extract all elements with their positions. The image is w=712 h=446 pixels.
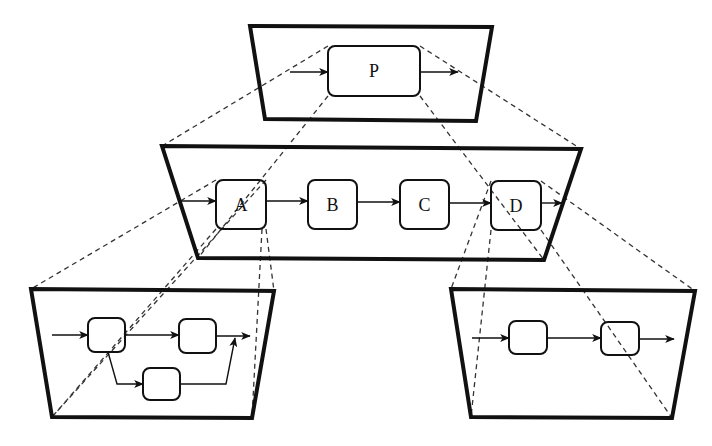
projection-dashed-line bbox=[451, 181, 491, 289]
process-label: A bbox=[235, 195, 248, 215]
process-D: D bbox=[491, 181, 541, 230]
process-box bbox=[509, 321, 547, 354]
process-D1 bbox=[509, 321, 547, 354]
process-box bbox=[601, 322, 639, 355]
projection-dashed-line bbox=[31, 180, 216, 289]
process-A2 bbox=[179, 319, 216, 353]
level-bottom-right-frame bbox=[451, 289, 695, 418]
process-label: D bbox=[510, 196, 523, 216]
process-A: A bbox=[216, 180, 266, 229]
process-C: C bbox=[400, 180, 449, 229]
process-B: B bbox=[308, 180, 357, 229]
process-label: P bbox=[369, 61, 379, 81]
diagram-canvas: PABCD bbox=[0, 0, 712, 446]
projection-dashed-line bbox=[162, 46, 328, 146]
process-D2 bbox=[601, 322, 639, 355]
process-box bbox=[179, 319, 216, 353]
process-A3 bbox=[143, 368, 180, 400]
projection-dashed-line bbox=[420, 46, 581, 149]
process-box bbox=[88, 318, 125, 352]
process-A1 bbox=[88, 318, 125, 352]
flow-arrow bbox=[108, 352, 143, 384]
projection-lines bbox=[31, 46, 695, 418]
process-label: B bbox=[326, 195, 338, 215]
process-hierarchy-diagram: PABCD bbox=[0, 0, 712, 446]
process-box bbox=[143, 368, 180, 400]
process-P: P bbox=[328, 46, 420, 96]
process-label: C bbox=[418, 195, 430, 215]
